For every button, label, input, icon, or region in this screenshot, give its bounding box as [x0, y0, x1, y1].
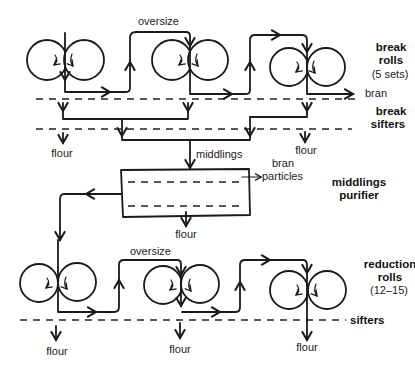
reduction-rolls-title-1: reduction [364, 258, 415, 270]
purifier-title-1: middlings [332, 176, 386, 188]
oversize-label-top: oversize [138, 15, 179, 27]
flour-label-reduction-middle: flour [169, 343, 191, 355]
break-sifters-title-1: break [376, 105, 407, 117]
break-sifters-title-2: sifters [371, 118, 406, 130]
middlings-label: middlings [196, 148, 243, 160]
reduction-rolls-count: (12–15) [370, 284, 408, 296]
flour-label-break-right: flour [295, 144, 317, 156]
bran-particles-label-1: bran [272, 157, 294, 169]
flour-label-reduction-left: flour [46, 345, 68, 357]
milling-diagram: oversize bran break rolls (5 sets) flour… [0, 0, 415, 377]
reduction-roll-3b [308, 271, 346, 309]
break-roll-3a [270, 48, 308, 86]
break-rolls-title-2: rolls [379, 54, 403, 66]
middlings-purifier-group: middlings bran particles flour middlings… [60, 140, 386, 240]
flour-label-break-left: flour [51, 147, 73, 159]
reduction-roll-1b [58, 263, 96, 301]
reduction-roll-2a [144, 266, 182, 304]
purifier-title-2: purifier [339, 189, 379, 201]
break-roll-1a [27, 40, 67, 80]
break-roll-1b [64, 40, 104, 80]
oversize-label-bottom: oversize [130, 245, 171, 257]
reduction-roll-3a [270, 271, 308, 309]
bran-particles-label-2: particles [262, 170, 303, 182]
flour-label-purifier: flour [175, 228, 197, 240]
purifier-box [121, 169, 250, 217]
reduction-roll-1a [20, 264, 58, 302]
bran-label: bran [365, 87, 387, 99]
reduction-rolls-title-2: rolls [378, 271, 402, 283]
break-rolls-title-1: break [376, 41, 407, 53]
reduction-roll-2b [181, 265, 219, 303]
break-roll-2b [188, 40, 228, 80]
break-roll-2a [152, 40, 192, 80]
break-rolls-group: oversize bran break rolls (5 sets) [27, 15, 408, 99]
sifters-title: sifters [350, 314, 385, 326]
reduction-sifters-group: sifters flour flour flour [20, 314, 385, 357]
flour-label-reduction-right: flour [296, 341, 318, 353]
break-rolls-count: (5 sets) [372, 68, 409, 80]
